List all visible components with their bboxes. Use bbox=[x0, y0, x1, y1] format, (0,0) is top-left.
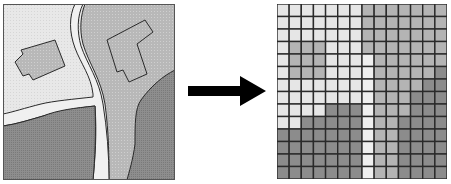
grid-cell bbox=[386, 154, 398, 167]
grid-cell bbox=[289, 67, 301, 80]
right-arrow-icon bbox=[188, 76, 266, 106]
grid-cell bbox=[374, 142, 386, 155]
grid-cell bbox=[301, 29, 313, 42]
grid-cell bbox=[313, 117, 325, 130]
grid-cell bbox=[350, 67, 362, 80]
grid-cell bbox=[301, 42, 313, 55]
grid-cell bbox=[350, 142, 362, 155]
grid-cell bbox=[398, 17, 410, 30]
grid-cell bbox=[313, 129, 325, 142]
grid-cell bbox=[301, 79, 313, 92]
grid-cell bbox=[374, 154, 386, 167]
grid-cell bbox=[313, 79, 325, 92]
grid-cell bbox=[398, 129, 410, 142]
grid-cell bbox=[313, 167, 325, 180]
grid-cell bbox=[374, 54, 386, 67]
grid-cell bbox=[374, 17, 386, 30]
grid-cell bbox=[374, 79, 386, 92]
grid-cell bbox=[398, 79, 410, 92]
grid-cell bbox=[423, 29, 435, 42]
grid-cell bbox=[350, 129, 362, 142]
grid-cell bbox=[326, 154, 338, 167]
grid-cell bbox=[338, 79, 350, 92]
grid-cell bbox=[338, 117, 350, 130]
grid-cell bbox=[350, 4, 362, 17]
vector-map bbox=[3, 4, 175, 180]
grid-cell bbox=[277, 67, 289, 80]
grid-cell bbox=[326, 54, 338, 67]
grid-cell bbox=[277, 54, 289, 67]
grid-cell bbox=[435, 92, 447, 105]
grid-cell bbox=[435, 17, 447, 30]
grid-cell bbox=[326, 42, 338, 55]
grid-cell bbox=[289, 104, 301, 117]
grid-cell bbox=[386, 67, 398, 80]
grid-cell bbox=[289, 129, 301, 142]
grid-cell bbox=[313, 104, 325, 117]
grid-cell bbox=[289, 92, 301, 105]
grid-cell bbox=[326, 142, 338, 155]
grid-cell bbox=[374, 42, 386, 55]
grid-cell bbox=[411, 117, 423, 130]
grid-cell bbox=[313, 92, 325, 105]
grid-cell bbox=[289, 154, 301, 167]
grid-cell bbox=[350, 42, 362, 55]
grid-cell bbox=[411, 29, 423, 42]
grid-cell bbox=[423, 104, 435, 117]
grid-cell bbox=[277, 167, 289, 180]
grid-cell bbox=[386, 79, 398, 92]
grid-cell bbox=[277, 92, 289, 105]
grid-cell bbox=[350, 54, 362, 67]
grid-cell bbox=[411, 42, 423, 55]
grid-cell bbox=[277, 142, 289, 155]
grid-cell bbox=[362, 167, 374, 180]
grid-cell bbox=[398, 29, 410, 42]
grid-cell bbox=[411, 154, 423, 167]
grid-cell bbox=[374, 129, 386, 142]
grid-cell bbox=[301, 167, 313, 180]
grid-cell bbox=[301, 117, 313, 130]
grid-cell bbox=[386, 54, 398, 67]
grid-cell bbox=[326, 104, 338, 117]
grid-cell bbox=[313, 67, 325, 80]
grid-cell bbox=[326, 29, 338, 42]
grid-cell bbox=[362, 104, 374, 117]
grid-cell bbox=[435, 154, 447, 167]
vector-map-drawing bbox=[3, 4, 175, 180]
grid-cell bbox=[374, 167, 386, 180]
grid-cell bbox=[277, 154, 289, 167]
grid-cell bbox=[386, 104, 398, 117]
grid-cell bbox=[398, 104, 410, 117]
grid-cell bbox=[277, 117, 289, 130]
grid-cell bbox=[362, 54, 374, 67]
grid-cell bbox=[362, 4, 374, 17]
grid-cell bbox=[313, 154, 325, 167]
grid-cell bbox=[411, 79, 423, 92]
grid-cell bbox=[277, 29, 289, 42]
grid-cell bbox=[338, 4, 350, 17]
grid-cell bbox=[435, 167, 447, 180]
grid-cell bbox=[435, 54, 447, 67]
grid-cell bbox=[301, 104, 313, 117]
grid-cell bbox=[435, 129, 447, 142]
grid-cell bbox=[289, 54, 301, 67]
grid-cell bbox=[411, 4, 423, 17]
grid-cell bbox=[289, 17, 301, 30]
grid-cell bbox=[398, 142, 410, 155]
grid-cell bbox=[289, 79, 301, 92]
grid-cell bbox=[301, 54, 313, 67]
grid-cell bbox=[423, 17, 435, 30]
grid-cell bbox=[423, 42, 435, 55]
grid-cell bbox=[362, 67, 374, 80]
grid-cell bbox=[338, 54, 350, 67]
grid-cell bbox=[362, 17, 374, 30]
grid-cell bbox=[338, 129, 350, 142]
grid-cell bbox=[386, 42, 398, 55]
grid-cell bbox=[386, 129, 398, 142]
grid-cell bbox=[301, 154, 313, 167]
grid-cell bbox=[435, 4, 447, 17]
grid-cell bbox=[398, 154, 410, 167]
grid-cell bbox=[338, 142, 350, 155]
grid-cell bbox=[289, 117, 301, 130]
grid-cell bbox=[435, 117, 447, 130]
